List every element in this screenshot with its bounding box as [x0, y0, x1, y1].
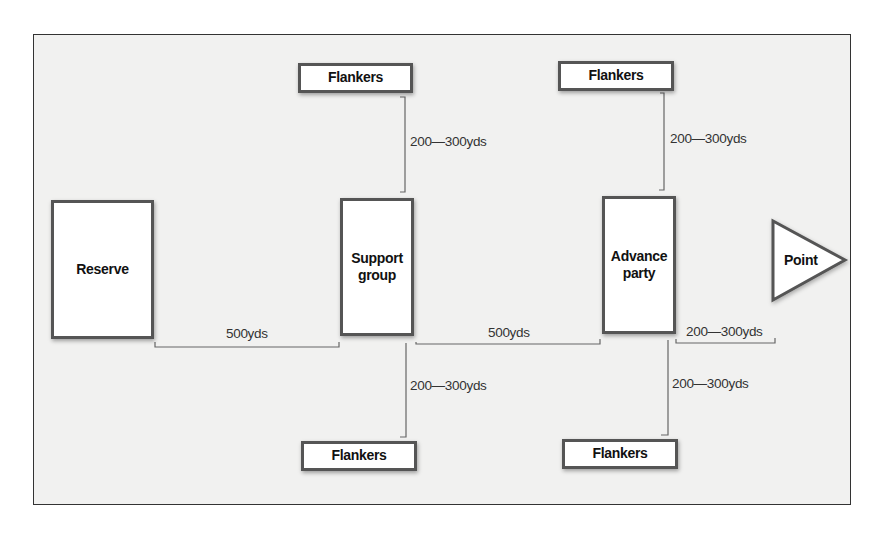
- distance-advance-top-flankers: 200—300yds: [670, 131, 747, 146]
- flankers-label: Flankers: [331, 447, 386, 465]
- distance-advance-point: 200—300yds: [686, 324, 763, 339]
- flankers-support-bottom-box: Flankers: [301, 441, 417, 471]
- flankers-advance-top-box: Flankers: [558, 61, 674, 91]
- distance-reserve-support: 500yds: [226, 326, 268, 341]
- point-triangle: [0, 0, 883, 534]
- distance-support-advance: 500yds: [488, 325, 530, 340]
- flankers-label: Flankers: [592, 445, 647, 463]
- distance-advance-bottom-flankers: 200—300yds: [672, 376, 749, 391]
- flankers-advance-bottom-box: Flankers: [562, 439, 678, 469]
- flankers-label: Flankers: [588, 67, 643, 85]
- point-label: Point: [784, 252, 818, 268]
- distance-support-bottom-flankers: 200—300yds: [410, 378, 487, 393]
- flankers-label: Flankers: [328, 69, 383, 87]
- distance-support-top-flankers: 200—300yds: [410, 134, 487, 149]
- flankers-support-top-box: Flankers: [298, 63, 413, 93]
